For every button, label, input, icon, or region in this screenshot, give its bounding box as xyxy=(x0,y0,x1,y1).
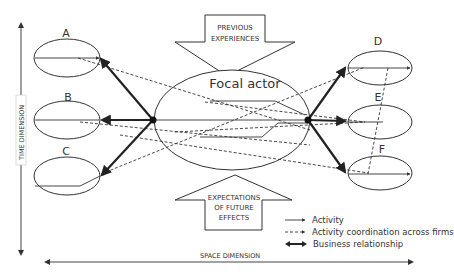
right-junction xyxy=(305,117,312,124)
node-b: B xyxy=(34,91,100,139)
node-d: D xyxy=(348,35,412,85)
node-e: E xyxy=(348,91,412,139)
time-axis: TIME DIMENSION xyxy=(16,22,26,256)
expectations-arrow: EXPECTATIONS OF FUTURE EFFECTS xyxy=(175,175,292,230)
node-a-label: A xyxy=(62,27,70,40)
previous-experiences-line1: PREVIOUS xyxy=(217,24,253,32)
node-f: F xyxy=(348,143,412,190)
focal-actor-label: Focal actor xyxy=(209,76,281,91)
node-c: C xyxy=(34,145,100,195)
legend-activity: Activity xyxy=(285,215,344,225)
node-e-label: E xyxy=(375,91,382,104)
space-axis: SPACE DIMENSION xyxy=(44,252,414,265)
node-b-label: B xyxy=(64,91,72,104)
expectations-line3: EFFECTS xyxy=(219,214,250,222)
legend-coordination-label: Activity coordination across firms xyxy=(312,227,454,237)
legend-business-label: Business relationship xyxy=(313,239,403,249)
expectations-line1: EXPECTATIONS xyxy=(208,194,261,202)
space-axis-label: SPACE DIMENSION xyxy=(200,252,260,260)
previous-experiences-line2: EXPERIENCES xyxy=(211,35,260,43)
time-axis-label: TIME DIMENSION xyxy=(18,105,26,161)
previous-experiences-arrow: PREVIOUS EXPERIENCES xyxy=(175,15,295,76)
diagram-canvas: TIME DIMENSION SPACE DIMENSION PREVIOUS … xyxy=(0,0,454,276)
node-d-label: D xyxy=(374,35,382,48)
node-a: A xyxy=(34,27,100,77)
legend: Activity Activity coordination across fi… xyxy=(285,215,454,249)
left-junction xyxy=(150,117,157,124)
legend-activity-label: Activity xyxy=(312,215,344,225)
legend-coordination: Activity coordination across firms xyxy=(285,227,454,237)
node-f-label: F xyxy=(379,143,385,156)
expectations-line2: OF FUTURE xyxy=(214,204,254,212)
node-c-label: C xyxy=(62,145,70,158)
legend-business-relationship: Business relationship xyxy=(285,239,403,249)
